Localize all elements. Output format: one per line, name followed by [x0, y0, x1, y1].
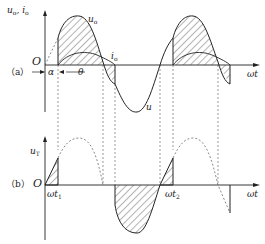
waveform-diagram [0, 0, 265, 244]
x-axis-arrow-icon [253, 183, 260, 187]
wt2-label: ωt2 [165, 190, 180, 200]
theta-label: θ [78, 68, 83, 77]
y-axis-arrow-icon [43, 10, 47, 16]
panel-b-label: （b） [6, 180, 30, 189]
panel-b-y-axis-label: uT [30, 147, 40, 157]
x-axis-arrow-icon [253, 63, 260, 67]
curve-io-label: io [111, 52, 118, 62]
panel-a [32, 10, 260, 112]
alpha-label: α [48, 68, 54, 77]
panel-b-x-axis-label: ωt [247, 190, 258, 199]
guide-lines [58, 65, 218, 185]
curve-u-label: u [146, 103, 152, 112]
wt1-label: ωt1 [47, 190, 62, 200]
panel-b [43, 136, 260, 240]
panel-a-label: （a） [6, 68, 29, 77]
panel-a-origin-label: O [32, 56, 41, 67]
curve-uo-label: uo [88, 15, 97, 25]
panel-b-origin-label: O [33, 178, 42, 189]
panel-a-y-axis-label: uo, io [7, 6, 29, 16]
y-axis-arrow-icon [43, 136, 47, 142]
panel-a-x-axis-label: ωt [247, 70, 258, 79]
